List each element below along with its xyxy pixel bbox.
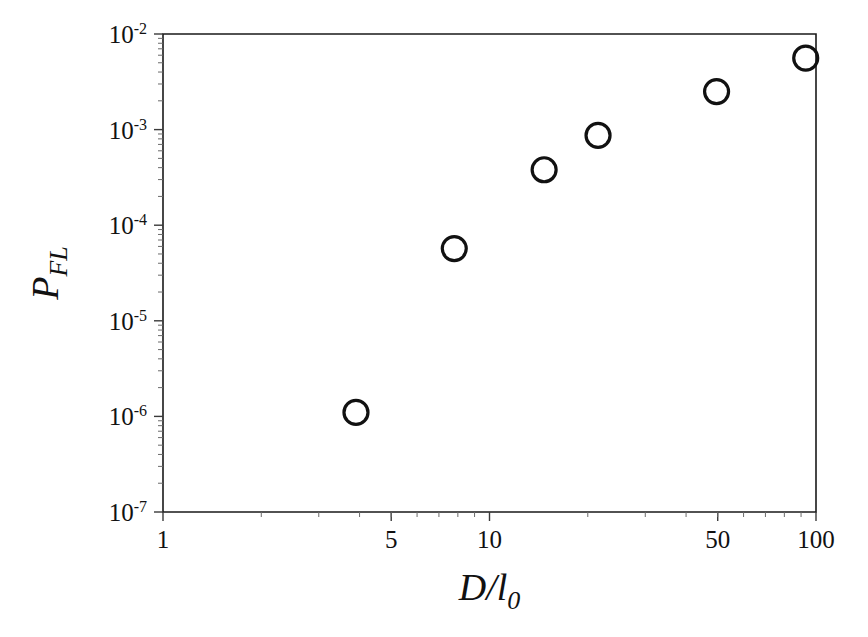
x-tick-label-10: 10 xyxy=(477,526,502,553)
x-tick-label-50: 50 xyxy=(705,526,730,553)
x-tick-label-1: 1 xyxy=(157,526,170,553)
x-tick-label-100: 100 xyxy=(797,526,835,553)
figure-container: 151050100 10-210-310-410-510-610-7 D/l0 … xyxy=(0,0,868,637)
x-tick-label-5: 5 xyxy=(385,526,398,553)
scatter-plot: 151050100 10-210-310-410-510-610-7 D/l0 … xyxy=(0,0,868,637)
